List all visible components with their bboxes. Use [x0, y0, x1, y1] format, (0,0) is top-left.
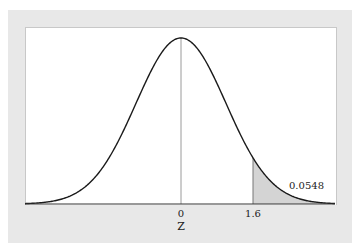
- normal-curve: [25, 38, 335, 204]
- x-axis-label: Z: [177, 220, 185, 233]
- tick-label-0: 0: [178, 208, 184, 219]
- tail-area-label: 0.0548: [289, 180, 324, 191]
- tick-label-1-6: 1.6: [245, 208, 261, 219]
